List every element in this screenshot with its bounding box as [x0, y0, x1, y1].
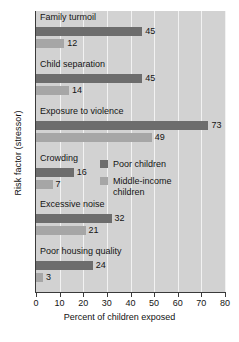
gridline-80 [225, 11, 226, 292]
bar-poor [36, 74, 142, 83]
bar-group: Child separation4514 [36, 58, 225, 105]
legend-swatch-icon-middle [100, 177, 108, 185]
legend-label-poor: Poor children [113, 159, 166, 170]
bar-value-label: 7 [56, 180, 61, 189]
bar-poor [36, 121, 208, 130]
x-tick-label-70: 70 [189, 298, 213, 308]
x-tick-label-40: 40 [119, 298, 143, 308]
x-tick-60 [178, 293, 179, 297]
x-tick-label-20: 20 [71, 298, 95, 308]
legend-label-middle: Middle-income children [113, 176, 172, 198]
category-label: Child separation [40, 59, 105, 70]
x-tick-40 [131, 293, 132, 297]
bar-value-label: 49 [155, 133, 165, 142]
x-tick-label-80: 80 [213, 298, 237, 308]
bar-value-label: 21 [89, 226, 99, 235]
plot-area: Family turmoil4512Child separation4514Ex… [36, 11, 225, 292]
bar-poor [36, 261, 93, 270]
x-tick-70 [201, 293, 202, 297]
bar-middle [36, 273, 43, 282]
category-label: Exposure to violence [40, 106, 124, 117]
bar-middle [36, 86, 69, 95]
bar-value-label: 12 [67, 39, 77, 48]
category-label: Crowding [40, 153, 78, 164]
bar-value-label: 32 [115, 214, 125, 223]
legend: Poor children Middle-income children [100, 159, 172, 204]
bar-group: Excessive noise3221 [36, 198, 225, 245]
legend-swatch-icon-poor [100, 160, 108, 168]
chart-figure: Risk factor (stressor) Family turmoil451… [0, 0, 239, 342]
bar-value-label: 73 [211, 121, 221, 130]
x-tick-label-60: 60 [166, 298, 190, 308]
x-tick-label-50: 50 [142, 298, 166, 308]
x-tick-50 [154, 293, 155, 297]
figure-caption-sliver [8, 335, 158, 340]
bar-group: Exposure to violence7349 [36, 105, 225, 152]
bar-poor [36, 168, 74, 177]
x-tick-20 [83, 293, 84, 297]
bar-middle [36, 180, 53, 189]
bar-value-label: 45 [145, 74, 155, 83]
bar-value-label: 16 [77, 168, 87, 177]
bar-middle [36, 39, 64, 48]
bar-value-label: 24 [96, 261, 106, 270]
x-tick-80 [225, 293, 226, 297]
x-tick-label-30: 30 [95, 298, 119, 308]
x-tick-label-0: 0 [24, 298, 48, 308]
legend-item-poor-children: Poor children [100, 159, 172, 170]
x-tick-30 [107, 293, 108, 297]
bar-group: Family turmoil4512 [36, 11, 225, 58]
bar-value-label: 14 [72, 86, 82, 95]
x-tick-label-10: 10 [48, 298, 72, 308]
bar-value-label: 3 [46, 273, 51, 282]
category-label: Poor housing quality [40, 246, 122, 257]
x-axis-title: Percent of children exposed [0, 312, 239, 322]
y-axis-title: Risk factor (stressor) [13, 53, 23, 253]
category-label: Family turmoil [40, 12, 96, 23]
legend-item-middle-income-children: Middle-income children [100, 176, 172, 198]
bar-middle [36, 133, 152, 142]
category-label: Excessive noise [40, 199, 105, 210]
bar-value-label: 45 [145, 27, 155, 36]
bar-poor [36, 214, 112, 223]
x-tick-0 [36, 293, 37, 297]
bar-middle [36, 226, 86, 235]
x-tick-10 [60, 293, 61, 297]
bar-group: Poor housing quality243 [36, 245, 225, 292]
bar-poor [36, 27, 142, 36]
